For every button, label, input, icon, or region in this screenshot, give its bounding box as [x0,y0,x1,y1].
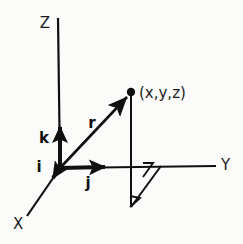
position-vector-group: r [60,97,127,168]
unit-vector-i-label: i [36,158,41,176]
right-angle-mark-upper-icon [143,163,153,177]
position-vector-r-label: r [88,114,96,132]
y-axis-label: Y [220,156,231,174]
x-axis-label: X [13,215,23,233]
point-coordinate-label: (x,y,z) [139,84,186,102]
point-group: (x,y,z) [127,84,186,102]
axes-group [27,18,216,216]
figure-canvas: Z Y X r k j i (x,y,z) [0,0,243,244]
unit-vectors-group: k j i [36,127,105,192]
position-vector-r-arrow [60,97,127,168]
projection-group [130,92,161,207]
unit-vector-k-label: k [39,129,50,147]
unit-vector-i-arrow [53,167,60,178]
coordinate-system-figure: Z Y X r k j i (x,y,z) [0,0,243,244]
unit-vector-j-label: j [84,174,90,192]
unit-vector-j-arrow [60,167,105,168]
point-marker-dot [127,88,135,96]
z-axis-label: Z [40,14,50,32]
